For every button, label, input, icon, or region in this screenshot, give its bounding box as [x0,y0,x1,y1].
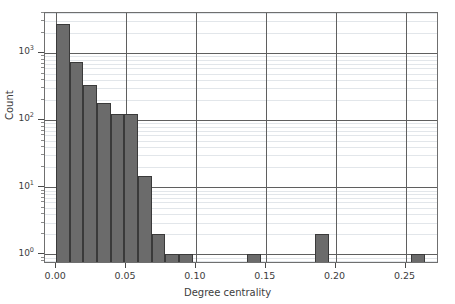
histogram-bar [138,176,152,263]
x-tick-major [405,263,406,268]
y-tick-label-10: 101 [2,182,34,191]
y-tick-minor [41,193,44,194]
x-tick-major [195,263,196,268]
y-tick-minor [41,73,44,74]
y-tick-major [38,119,44,120]
gridline-y-minor [45,13,437,14]
y-tick-major [38,52,44,53]
y-tick-major [38,253,44,254]
gridline-x-major [336,13,337,262]
gridline-y-minor [45,21,437,22]
y-tick-minor [41,146,44,147]
gridline-x-major [406,13,407,262]
histogram-bar [83,85,97,263]
x-tick-label: 0.15 [245,270,285,281]
y-tick-minor [41,126,44,127]
x-tick-label: 0.05 [105,270,145,281]
y-tick-minor [41,140,44,141]
y-tick-label-1: 100 [2,249,34,258]
histogram-bar [152,234,166,263]
x-tick-major [335,263,336,268]
histogram-bar [111,114,125,263]
y-tick-minor [41,207,44,208]
y-tick-minor [41,122,44,123]
x-axis-title: Degree centrality [0,287,455,298]
gridline-y-minor [45,33,437,34]
gridline-y-minor [45,60,437,61]
y-tick-major [38,186,44,187]
histogram-bar [70,62,84,263]
x-tick-label: 0.20 [315,270,355,281]
y-tick-minor [41,222,44,223]
y-tick-minor [41,197,44,198]
gridline-y-minor [45,100,437,101]
y-tick-minor [41,12,44,13]
y-tick-minor [41,213,44,214]
x-tick-label: 0.00 [35,270,75,281]
y-tick-minor [41,166,44,167]
y-tick-minor [41,130,44,131]
y-tick-minor [41,190,44,191]
histogram-bar [315,234,329,263]
y-tick-minor [41,32,44,33]
histogram-bar [247,254,261,263]
gridline-y-major [45,53,437,54]
y-tick-minor [41,99,44,100]
y-tick-minor [41,59,44,60]
histogram-bar [97,103,111,264]
y-tick-minor [41,154,44,155]
gridline-y-minor [45,64,437,65]
x-tick-label: 0.10 [175,270,215,281]
histogram-bar [179,254,193,263]
plot-area [44,12,438,263]
y-tick-minor [41,233,44,234]
y-tick-minor [41,201,44,202]
y-tick-minor [41,79,44,80]
gridline-y-minor [45,56,437,57]
gridline-y-minor [45,74,437,75]
histogram-bar [165,254,179,263]
x-tick-major [265,263,266,268]
y-tick-minor [41,87,44,88]
histogram-figure: Count 103 102 101 100 0.000.050.100.150.… [0,0,455,304]
histogram-bar [124,114,138,263]
gridline-x-major [266,13,267,262]
y-tick-minor [41,257,44,258]
x-tick-major [125,263,126,268]
histogram-bar [411,254,425,263]
y-tick-minor [41,67,44,68]
y-tick-label-1000: 103 [2,47,34,56]
histogram-bar [56,24,70,263]
gridline-x-major [196,13,197,262]
gridline-y-minor [45,88,437,89]
x-tick-major [55,263,56,268]
y-tick-minor [41,260,44,261]
x-tick-label: 0.25 [385,270,425,281]
gridline-y-minor [45,80,437,81]
y-tick-minor [41,20,44,21]
y-tick-minor [41,55,44,56]
y-tick-label-100: 102 [2,114,34,123]
y-tick-minor [41,63,44,64]
y-tick-minor [41,134,44,135]
gridline-y-minor [45,68,437,69]
